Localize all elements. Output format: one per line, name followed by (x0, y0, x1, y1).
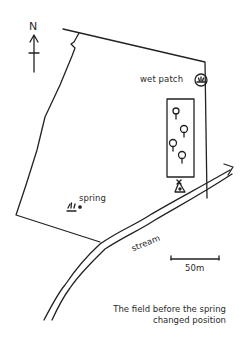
north-label: N (29, 20, 37, 33)
field-boundary (16, 29, 207, 242)
tree-icon (179, 152, 186, 164)
map-caption: The field before the spring changed posi… (113, 304, 226, 326)
caption-line-1: The field before the spring (113, 304, 226, 315)
spring-label: spring (79, 193, 106, 203)
tree-icon (173, 108, 179, 119)
spring-icon (67, 203, 81, 211)
scale-bar (171, 256, 219, 260)
tree-icon (170, 140, 177, 152)
scale-label: 50m (185, 263, 204, 273)
tent-icon (175, 180, 185, 192)
wet-patch-label: wet patch (140, 74, 183, 84)
tree-icon (181, 126, 188, 138)
woodland-block (167, 99, 194, 177)
field-map (0, 0, 244, 340)
caption-line-2: changed position (113, 315, 226, 326)
north-arrow-icon (29, 35, 39, 72)
